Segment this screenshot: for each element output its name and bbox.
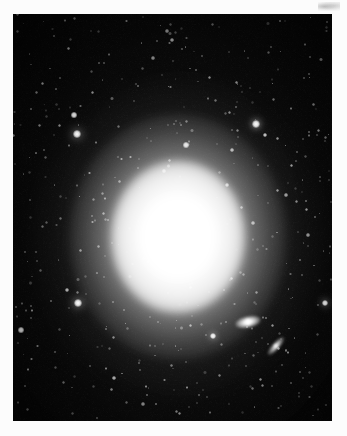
faint-star (36, 260, 39, 263)
faint-star (180, 326, 183, 329)
faint-star (55, 224, 57, 226)
faint-star (109, 106, 111, 108)
faint-star (16, 30, 19, 33)
faint-star (103, 276, 104, 277)
faint-star (207, 223, 209, 225)
faint-star (317, 408, 320, 411)
faint-star (249, 87, 251, 89)
faint-star (71, 387, 72, 388)
faint-star (284, 20, 286, 22)
faint-star (118, 244, 119, 245)
faint-star (240, 85, 242, 87)
faint-star (114, 177, 115, 178)
faint-star (233, 303, 236, 306)
faint-star (244, 50, 245, 51)
faint-star (247, 292, 249, 294)
faint-star (184, 248, 185, 249)
faint-star (25, 309, 28, 312)
faint-star (200, 323, 203, 326)
faint-star (30, 64, 31, 65)
faint-star (175, 345, 177, 347)
photographic-plate (13, 14, 332, 421)
faint-star (104, 255, 106, 257)
faint-star (137, 220, 139, 222)
faint-star (176, 132, 178, 134)
faint-star (239, 271, 242, 274)
faint-star (27, 368, 30, 371)
bright-star (199, 204, 202, 207)
faint-star (241, 411, 244, 414)
faint-star (303, 77, 305, 79)
faint-star (196, 402, 198, 404)
faint-star (308, 396, 310, 398)
faint-star (91, 91, 94, 94)
faint-star (254, 406, 255, 407)
faint-star (230, 277, 233, 280)
faint-star (186, 386, 188, 388)
faint-star (139, 369, 141, 371)
faint-star (139, 187, 140, 188)
bright-star (261, 384, 264, 387)
faint-star (229, 218, 232, 221)
faint-star (252, 354, 255, 357)
faint-star (156, 40, 158, 42)
faint-star (27, 261, 28, 262)
faint-star (73, 375, 76, 378)
faint-star (251, 327, 253, 329)
faint-star (303, 242, 305, 244)
faint-star (255, 341, 257, 343)
faint-star (76, 184, 79, 187)
faint-star (308, 371, 311, 374)
faint-star (24, 385, 26, 387)
faint-star (41, 225, 44, 228)
faint-star (325, 30, 328, 33)
faint-star (271, 235, 274, 238)
faint-star (305, 200, 307, 202)
faint-star (193, 51, 194, 52)
faint-star (141, 42, 142, 43)
faint-star (90, 70, 93, 73)
faint-star (237, 83, 238, 84)
faint-star (179, 255, 182, 258)
faint-star (101, 345, 103, 347)
faint-star (168, 159, 171, 162)
faint-star (145, 385, 147, 387)
faint-star (315, 108, 318, 111)
faint-star (150, 128, 152, 130)
faint-star (310, 385, 313, 388)
faint-star (208, 291, 210, 293)
faint-star (31, 276, 33, 278)
faint-star (88, 172, 91, 175)
faint-star (267, 343, 270, 346)
faint-star (23, 354, 24, 355)
faint-star (103, 62, 105, 64)
faint-star (167, 292, 169, 294)
faint-star (185, 120, 188, 123)
faint-star (160, 25, 161, 26)
faint-star (224, 112, 227, 115)
faint-star (267, 51, 270, 54)
faint-star (128, 275, 131, 278)
faint-star (23, 23, 24, 24)
bright-star (43, 149, 46, 152)
faint-star (50, 300, 52, 302)
faint-star (180, 348, 182, 350)
faint-star (191, 282, 193, 284)
faint-star (58, 328, 61, 331)
faint-star (175, 239, 177, 241)
faint-star (68, 307, 70, 309)
faint-star (38, 124, 41, 127)
faint-star (236, 129, 239, 132)
faint-star (328, 170, 330, 172)
faint-star (278, 332, 281, 335)
faint-star (58, 259, 60, 261)
faint-star (69, 106, 71, 108)
faint-star (54, 184, 56, 186)
faint-star (330, 278, 332, 280)
faint-star (175, 327, 176, 328)
faint-star (214, 99, 217, 102)
faint-star (259, 91, 261, 93)
faint-star (79, 249, 82, 252)
faint-star (276, 137, 279, 140)
faint-star (108, 347, 111, 350)
